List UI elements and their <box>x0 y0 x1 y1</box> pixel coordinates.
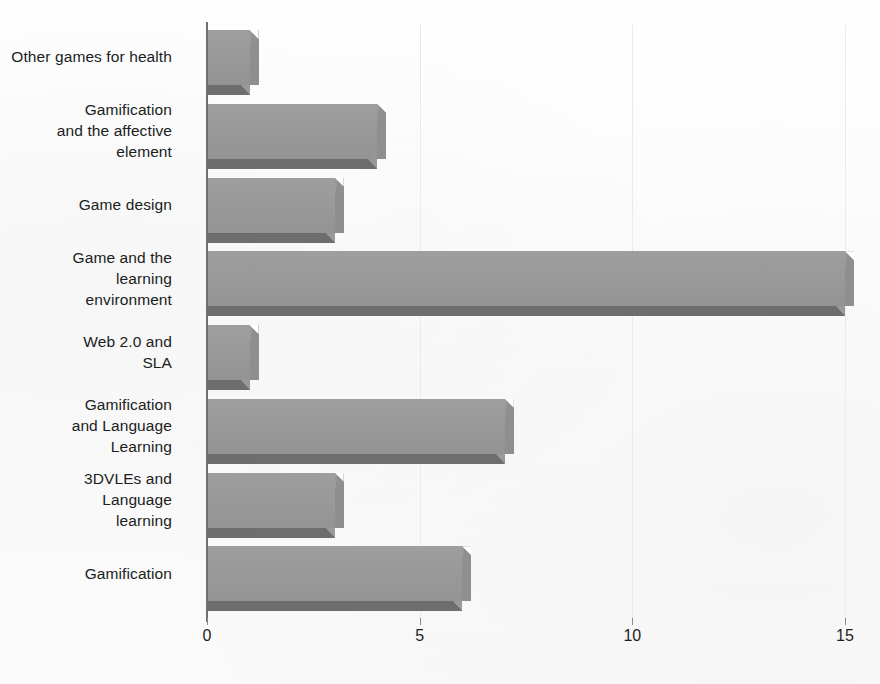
bar-row <box>207 468 845 542</box>
category-label: Other games for health <box>0 46 172 67</box>
category-label-line: learning <box>0 510 172 531</box>
bar[interactable] <box>207 251 845 306</box>
category-label-line: and Language <box>0 415 172 436</box>
category-label-line: learning <box>0 268 172 289</box>
bar[interactable] <box>207 399 505 454</box>
axis-tick-label: 5 <box>415 627 424 645</box>
bar-bevel-bottom <box>836 306 845 316</box>
category-label-line: Language <box>0 489 172 510</box>
category-label-line: environment <box>0 289 172 310</box>
bar-row <box>207 541 845 615</box>
category-label: Game and thelearningenvironment <box>0 247 172 310</box>
bar-bevel-side <box>250 30 259 85</box>
bar-row <box>207 394 845 468</box>
value-axis-line <box>206 22 208 622</box>
bar-bevel-side <box>845 251 854 306</box>
category-label-line: Other games for health <box>0 46 172 67</box>
bar-bevel-side <box>335 178 344 233</box>
axis-tick-label: 10 <box>623 627 641 645</box>
category-label: Gamificationand the affectiveelement <box>0 99 172 162</box>
bar-bottom-shadow <box>207 528 326 538</box>
value-axis: 051015 <box>207 618 845 658</box>
axis-tick <box>207 618 208 625</box>
category-label-line: Gamification <box>0 99 172 120</box>
bar-face <box>207 325 250 380</box>
bar[interactable] <box>207 473 335 528</box>
category-label-line: Web 2.0 and <box>0 331 172 352</box>
bar-bevel-bottom <box>368 159 377 169</box>
axis-tick-label: 0 <box>203 627 212 645</box>
bar[interactable] <box>207 178 335 233</box>
bar-bevel-bottom <box>326 528 335 538</box>
bar-face <box>207 399 505 454</box>
bar-bottom-shadow <box>207 380 241 390</box>
bar-row <box>207 173 845 247</box>
bar-bottom-shadow <box>207 601 453 611</box>
category-label: 3DVLEs andLanguagelearning <box>0 468 172 531</box>
bar-bevel-side <box>462 546 471 601</box>
category-label: Gamification <box>0 563 172 584</box>
bar[interactable] <box>207 104 377 159</box>
bar-bevel-bottom <box>241 380 250 390</box>
bar-row <box>207 320 845 394</box>
bar-bevel-bottom <box>241 85 250 95</box>
category-axis: Other games for healthGamificationand th… <box>0 25 172 615</box>
bar-face <box>207 546 462 601</box>
category-label: Game design <box>0 194 172 215</box>
bar-bevel-side <box>335 473 344 528</box>
bar-bevel-side <box>377 104 386 159</box>
bar-face <box>207 251 845 306</box>
bar-face <box>207 473 335 528</box>
category-label-line: SLA <box>0 352 172 373</box>
category-label: Web 2.0 andSLA <box>0 331 172 373</box>
axis-tick <box>845 618 846 625</box>
category-label-line: and the affective <box>0 120 172 141</box>
axis-tick-label: 15 <box>836 627 854 645</box>
bar-bottom-shadow <box>207 159 368 169</box>
bar-bevel-bottom <box>496 454 505 464</box>
axis-tick <box>420 618 421 625</box>
category-label: Gamificationand LanguageLearning <box>0 394 172 457</box>
bar-face <box>207 30 250 85</box>
bar-chart: Other games for healthGamificationand th… <box>0 0 880 684</box>
category-label-line: Gamification <box>0 563 172 584</box>
bar-face <box>207 104 377 159</box>
category-label-line: element <box>0 141 172 162</box>
bar[interactable] <box>207 325 250 380</box>
bar-row <box>207 246 845 320</box>
bar[interactable] <box>207 546 462 601</box>
plot-area <box>207 25 845 615</box>
bar[interactable] <box>207 30 250 85</box>
bar-bottom-shadow <box>207 454 496 464</box>
category-label-line: Learning <box>0 436 172 457</box>
bar-bottom-shadow <box>207 85 241 95</box>
category-label-line: 3DVLEs and <box>0 468 172 489</box>
category-label-line: Game and the <box>0 247 172 268</box>
bar-bevel-bottom <box>326 233 335 243</box>
bar-bottom-shadow <box>207 233 326 243</box>
gridline <box>845 25 846 618</box>
bar-row <box>207 25 845 99</box>
bar-row <box>207 99 845 173</box>
bar-bevel-side <box>250 325 259 380</box>
bar-bottom-shadow <box>207 306 836 316</box>
bar-face <box>207 178 335 233</box>
bar-bevel-bottom <box>453 601 462 611</box>
category-label-line: Game design <box>0 194 172 215</box>
bar-bevel-side <box>505 399 514 454</box>
category-label-line: Gamification <box>0 394 172 415</box>
axis-tick <box>632 618 633 625</box>
